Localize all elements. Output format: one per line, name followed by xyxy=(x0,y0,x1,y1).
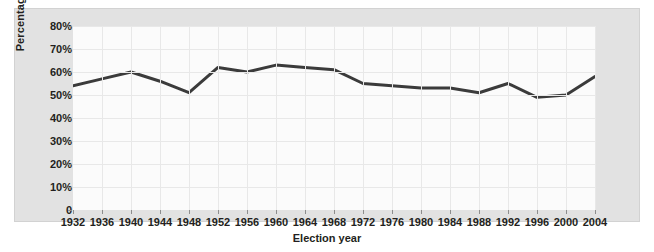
y-axis-tick-label: 0 xyxy=(34,204,72,216)
y-axis-tick-label: 30% xyxy=(34,135,72,147)
y-axis-tick-labels: 80%70%60%50%40%30%20%10%0 xyxy=(34,18,72,218)
y-axis-tick-mark xyxy=(68,118,72,119)
y-axis-tick-label: 60% xyxy=(34,66,72,78)
vertical-gridline xyxy=(392,26,393,210)
y-axis-title: Percentage of eligible voters xyxy=(12,0,28,60)
y-axis-tick-label: 10% xyxy=(34,181,72,193)
y-axis-tick-mark xyxy=(68,187,72,188)
x-axis-tick-mark xyxy=(479,210,480,214)
vertical-gridline xyxy=(160,26,161,210)
x-axis-tick-mark xyxy=(276,210,277,214)
x-axis-tick-mark xyxy=(566,210,567,214)
y-axis-tick-label: 20% xyxy=(34,158,72,170)
x-axis-title: Election year xyxy=(0,232,654,244)
y-axis-tick-mark xyxy=(68,164,72,165)
x-axis-tick-label: 2004 xyxy=(575,216,615,229)
x-axis-tick-mark xyxy=(102,210,103,214)
vertical-gridline xyxy=(247,26,248,210)
y-axis-tick-mark xyxy=(68,49,72,50)
vertical-gridline xyxy=(450,26,451,210)
y-axis-tick-mark xyxy=(68,26,72,27)
x-axis-tick-mark xyxy=(189,210,190,214)
y-axis-tick-mark xyxy=(68,141,72,142)
vertical-gridline xyxy=(421,26,422,210)
x-axis-tick-mark xyxy=(363,210,364,214)
x-axis-tick-mark xyxy=(73,210,74,214)
x-axis-tick-mark xyxy=(595,210,596,214)
y-axis-tick-mark xyxy=(68,95,72,96)
x-axis-tick-mark xyxy=(421,210,422,214)
x-axis-tick-mark xyxy=(392,210,393,214)
vertical-gridline xyxy=(305,26,306,210)
vertical-gridline xyxy=(508,26,509,210)
x-axis-tick-mark xyxy=(334,210,335,214)
y-axis-tick-label: 40% xyxy=(34,112,72,124)
y-axis-tick-label: 80% xyxy=(34,20,72,32)
vertical-gridline xyxy=(102,26,103,210)
vertical-gridline xyxy=(131,26,132,210)
x-axis-tick-mark xyxy=(305,210,306,214)
x-axis-tick-mark xyxy=(450,210,451,214)
x-axis-tick-mark xyxy=(218,210,219,214)
vertical-gridline xyxy=(189,26,190,210)
vertical-gridline xyxy=(363,26,364,210)
y-axis-tick-label: 70% xyxy=(34,43,72,55)
x-axis-tick-mark xyxy=(508,210,509,214)
vertical-gridline xyxy=(276,26,277,210)
vertical-gridline xyxy=(479,26,480,210)
x-axis-tick-mark xyxy=(131,210,132,214)
y-axis-tick-mark xyxy=(68,210,72,211)
x-axis-tick-mark xyxy=(247,210,248,214)
plot-area xyxy=(73,26,596,210)
vertical-gridline xyxy=(218,26,219,210)
chart-figure: Percentage of eligible voters 80%70%60%5… xyxy=(0,0,654,252)
x-axis-tick-mark xyxy=(537,210,538,214)
vertical-gridline xyxy=(566,26,567,210)
vertical-gridline xyxy=(334,26,335,210)
vertical-gridline xyxy=(595,26,596,210)
y-axis-tick-label: 50% xyxy=(34,89,72,101)
x-axis-tick-mark xyxy=(160,210,161,214)
vertical-gridline xyxy=(537,26,538,210)
y-axis-tick-mark xyxy=(68,72,72,73)
